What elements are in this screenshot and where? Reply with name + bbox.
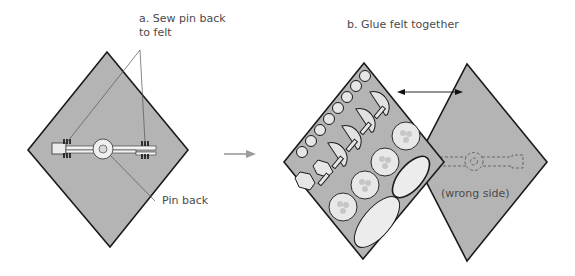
step-b-title: b. Glue felt together [347, 18, 459, 32]
step-a-title: a. Sew pin back to felt [139, 12, 226, 40]
wrong-side-callout: (wrong side) [441, 187, 510, 201]
process-arrow-icon [224, 150, 256, 158]
step-b-group [284, 63, 547, 261]
step-a-group [28, 50, 188, 247]
instruction-diagram [0, 0, 575, 276]
pin-back-callout: Pin back [162, 194, 208, 208]
